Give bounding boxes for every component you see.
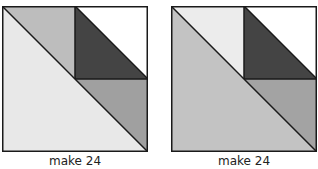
- block-1-caption: make 24: [2, 154, 148, 168]
- quilt-block-diagram: [171, 6, 317, 152]
- quilt-block-2: [171, 6, 317, 152]
- block-2-caption: make 24: [171, 154, 317, 168]
- quilt-block-diagram: [2, 6, 148, 152]
- quilt-block-1: [2, 6, 148, 152]
